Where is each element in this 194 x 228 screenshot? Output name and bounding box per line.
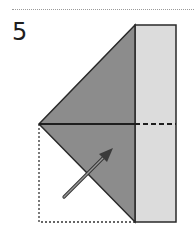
fold-diagram (0, 0, 194, 228)
